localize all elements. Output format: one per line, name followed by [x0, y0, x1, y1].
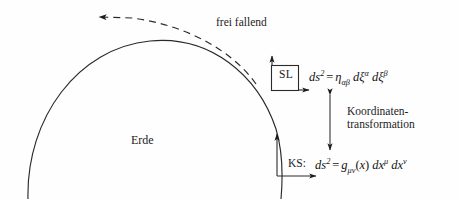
- ks-term2-index: ν: [403, 157, 407, 166]
- ks-arg-close: ): [365, 158, 369, 172]
- sl-metric-formula: ds2=ηαβdξαdξβ: [309, 69, 388, 87]
- sl-metric-indices: αβ: [342, 78, 350, 87]
- physics-diagram: frei fallend Erde Koordinaten- transform…: [0, 0, 461, 199]
- sl-equals: =: [324, 70, 335, 84]
- coordinate-transformation-line-2: transformation: [347, 118, 415, 131]
- ks-term1-index: μ: [384, 157, 388, 166]
- coordinate-transformation-line-1: Koordinaten-: [347, 105, 415, 118]
- coordinate-transformation-label: Koordinaten- transformation: [347, 105, 415, 131]
- earth-label: Erde: [131, 134, 154, 147]
- ks-label: KS:: [288, 157, 306, 170]
- ks-metric-formula: ds2=gμν(x)dxμdxν: [315, 157, 407, 175]
- sl-term2-index: β: [384, 69, 388, 78]
- free-fall-label: frei fallend: [216, 16, 267, 29]
- sl-box-label: SL: [273, 68, 299, 81]
- earth-surface-arc: [28, 40, 282, 199]
- ks-equals: =: [330, 158, 341, 172]
- sl-term1-index: α: [365, 69, 369, 78]
